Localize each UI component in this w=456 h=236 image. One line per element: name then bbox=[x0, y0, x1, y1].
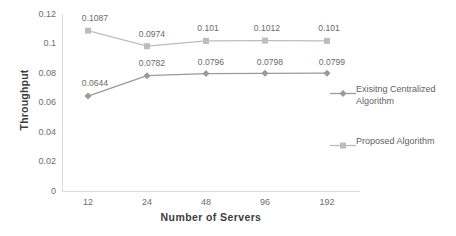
data-label-proposed-96: 0.1012 bbox=[254, 23, 280, 33]
y-axis-tick-0.12: 0.12 bbox=[22, 9, 56, 19]
data-label-existing-48: 0.0796 bbox=[198, 57, 224, 67]
legend-entry-existing[interactable]: Exisitng Centralized Algorithm bbox=[330, 84, 436, 107]
y-axis-tick-0.04: 0.04 bbox=[22, 127, 56, 137]
data-label-proposed-12: 0.1087 bbox=[82, 13, 108, 23]
data-label-existing-96: 0.0798 bbox=[257, 57, 283, 67]
marker-proposed-48 bbox=[203, 38, 209, 44]
x-axis-tick-96: 96 bbox=[245, 197, 285, 207]
x-axis-tick-24: 24 bbox=[127, 197, 167, 207]
data-label-proposed-192: 0.101 bbox=[318, 23, 340, 33]
x-axis-title: Number of Servers bbox=[62, 211, 360, 223]
marker-proposed-12 bbox=[85, 28, 91, 34]
data-label-existing-24: 0.0782 bbox=[139, 58, 165, 68]
x-axis-tick-48: 48 bbox=[186, 197, 226, 207]
throughput-line-chart: Throughput 0.12 0.1 0.08 0.06 0.04 0.02 … bbox=[0, 0, 456, 236]
plot-svg bbox=[62, 14, 360, 192]
square-marker-icon bbox=[330, 137, 356, 148]
legend-label-existing: Exisitng Centralized Algorithm bbox=[356, 84, 436, 107]
marker-proposed-24 bbox=[144, 43, 150, 49]
marker-existing-12 bbox=[85, 93, 92, 100]
marker-existing-192 bbox=[324, 70, 331, 77]
data-label-proposed-24: 0.0974 bbox=[139, 29, 165, 39]
data-label-existing-12: 0.0644 bbox=[82, 78, 108, 88]
marker-proposed-96 bbox=[262, 38, 268, 44]
x-axis-tick-12: 12 bbox=[68, 197, 108, 207]
series-existing-line bbox=[88, 73, 327, 96]
data-label-proposed-48: 0.101 bbox=[197, 23, 219, 33]
diamond-marker-icon bbox=[330, 85, 356, 96]
y-axis-tick-0.06: 0.06 bbox=[22, 97, 56, 107]
y-axis-tick-0.1: 0.1 bbox=[22, 38, 56, 48]
legend-label-proposed: Proposed Algorithm bbox=[356, 136, 435, 148]
marker-proposed-192 bbox=[324, 38, 330, 44]
legend-entry-proposed[interactable]: Proposed Algorithm bbox=[330, 136, 435, 148]
y-axis-tick-0.02: 0.02 bbox=[22, 156, 56, 166]
y-axis-tick-0: 0 bbox=[22, 186, 56, 196]
x-axis-tick-192: 192 bbox=[307, 197, 347, 207]
marker-existing-24 bbox=[144, 72, 151, 79]
y-axis-tick-0.08: 0.08 bbox=[22, 68, 56, 78]
marker-existing-96 bbox=[262, 70, 269, 77]
marker-existing-48 bbox=[203, 70, 210, 77]
plot-area: 0.1087 0.0974 0.101 0.1012 0.101 0.0644 … bbox=[62, 14, 360, 192]
data-label-existing-192: 0.0799 bbox=[319, 57, 345, 67]
